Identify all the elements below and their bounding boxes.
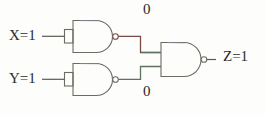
wire-node1	[118, 36, 161, 52]
node-value-top: 0	[143, 1, 151, 18]
gate-bottom-tied-input-bracket	[65, 73, 74, 87]
input-label-y: Y=1	[9, 70, 36, 87]
gate-top-tied-input-bracket	[65, 30, 74, 44]
gate-nand-top	[65, 21, 119, 53]
gate-bottom-body	[73, 64, 113, 96]
gate-output-body	[161, 43, 201, 77]
gate-output-bubble	[201, 57, 207, 63]
gate-nand-output	[161, 43, 216, 77]
node-value-bottom: 0	[143, 83, 151, 100]
gate-nand-bottom	[65, 64, 119, 96]
gate-top-output-bubble	[113, 34, 119, 40]
gate-top-body	[73, 21, 113, 53]
input-label-x: X=1	[9, 27, 36, 44]
wire-node2	[118, 67, 161, 80]
gate-bottom-output-bubble	[113, 77, 119, 83]
output-label-z: Z=1	[223, 48, 248, 65]
circuit-diagram-canvas: X=1 Y=1 Z=1 0 0	[0, 0, 265, 116]
